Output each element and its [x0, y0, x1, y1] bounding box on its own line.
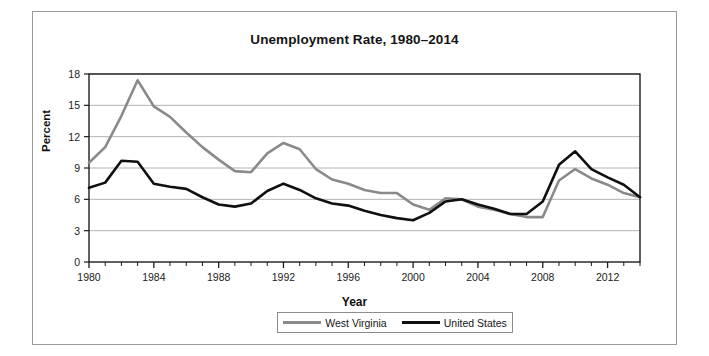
legend-label-united-states: United States [444, 317, 507, 329]
svg-text:2000: 2000 [401, 271, 425, 283]
svg-text:1988: 1988 [207, 271, 231, 283]
svg-text:1996: 1996 [337, 271, 361, 283]
svg-text:1980: 1980 [77, 271, 101, 283]
svg-text:1992: 1992 [272, 271, 296, 283]
svg-text:3: 3 [74, 225, 80, 237]
svg-text:9: 9 [74, 162, 80, 174]
svg-text:12: 12 [68, 131, 80, 143]
svg-text:6: 6 [74, 193, 80, 205]
svg-text:0: 0 [74, 256, 80, 268]
svg-text:2012: 2012 [596, 271, 620, 283]
legend-item-west-virginia: West Virginia [283, 317, 386, 329]
svg-text:18: 18 [68, 68, 80, 80]
gridlines [89, 74, 640, 231]
x-axis-label: Year [0, 295, 709, 309]
svg-text:2008: 2008 [531, 271, 555, 283]
legend-item-united-states: United States [402, 317, 507, 329]
chart-figure: Unemployment Rate, 1980–2014 Percent 036… [0, 0, 709, 356]
legend-label-west-virginia: West Virginia [325, 317, 386, 329]
chart-legend: West Virginia United States [277, 312, 513, 333]
legend-swatch-west-virginia [283, 321, 321, 324]
svg-text:1984: 1984 [142, 271, 166, 283]
y-axis-ticks: 0369121518 [68, 68, 89, 268]
legend-swatch-united-states [402, 321, 440, 324]
svg-text:2004: 2004 [466, 271, 490, 283]
svg-text:15: 15 [68, 99, 80, 111]
x-axis-ticks: 198019841988199219962000200420082012 [77, 262, 640, 283]
